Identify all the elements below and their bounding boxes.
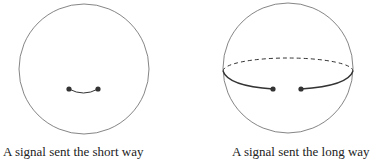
- sphere-outline: [223, 3, 353, 133]
- signal-point: [270, 86, 275, 91]
- caption-long-way: A signal sent the long way: [232, 144, 370, 160]
- short-way-figure: [19, 4, 149, 134]
- long-way-figure: [223, 3, 353, 133]
- caption-short-way: A signal sent the short way: [3, 144, 143, 160]
- signal-point: [95, 86, 100, 91]
- equator-back-dashed: [223, 58, 353, 71]
- signal-point: [66, 86, 71, 91]
- long-signal-path-left: [223, 71, 273, 89]
- long-signal-path-right: [301, 71, 353, 89]
- short-signal-path: [69, 89, 98, 93]
- sphere-outline: [19, 4, 149, 134]
- signal-point: [298, 86, 303, 91]
